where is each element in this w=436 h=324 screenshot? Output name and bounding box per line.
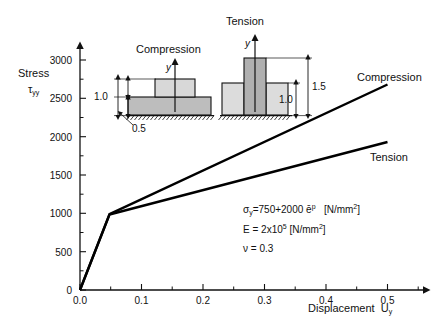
inset-tension: [219, 40, 313, 120]
y-tick-label: 500: [38, 248, 72, 258]
inset-tension-title: Tension: [226, 16, 264, 27]
y-axis-major-ticks: [80, 60, 86, 290]
poisson-ratio-line: ν = 0.3: [243, 243, 273, 254]
x-tick-label: 0.2: [188, 296, 218, 306]
y-axis-label-stress: Stress: [18, 68, 49, 79]
inset-tension-axis-label: y: [245, 39, 250, 49]
strain-superscript: p: [312, 203, 316, 210]
y-tick-label: 3000: [38, 56, 72, 66]
x-tick-label: 0.0: [65, 296, 95, 306]
x-tick-label: 0.3: [250, 296, 280, 306]
inset-compression-dim-lower: 0.5: [132, 124, 146, 134]
inset-tension-dim-inner: 1.0: [279, 95, 293, 105]
modulus-units-post: ]: [323, 224, 326, 235]
y-tick-label: 1500: [38, 171, 72, 181]
inset-compression: [114, 64, 214, 125]
inset-compression-axis-label: y: [166, 63, 171, 73]
curve-label-tension: Tension: [370, 152, 408, 163]
material-law-line: σy=750+2000 ēp [N/mm2]: [243, 203, 360, 216]
curve-tension: [80, 142, 388, 290]
x-axis-subscript: y: [389, 308, 393, 315]
inset-tension-dim-outer: 1.5: [312, 82, 326, 92]
sigma-units-pre: [N/mm: [324, 204, 353, 215]
inset-compression-dim-upper: 1.0: [94, 92, 108, 102]
x-axis-label: Displacement Uy: [308, 303, 392, 315]
sigma-units-post: ]: [357, 204, 360, 215]
youngs-modulus-line: E = 2x105 [N/mm2]: [243, 223, 326, 235]
x-axis-symbol: U: [381, 302, 389, 314]
y-tick-label: 0: [38, 286, 72, 296]
modulus-units-pre: [N/mm: [287, 224, 319, 235]
curve-label-compression: Compression: [357, 72, 422, 83]
y-tick-label: 2000: [38, 133, 72, 143]
modulus-value: E = 2x10: [243, 224, 283, 235]
inset-compression-title: Compression: [136, 44, 201, 55]
y-tick-label: 2500: [38, 94, 72, 104]
x-axis-label-text: Displacement: [308, 302, 375, 314]
y-tick-label: 1000: [38, 209, 72, 219]
sigma-expression: =750+2000: [253, 204, 306, 215]
x-tick-label: 0.1: [127, 296, 157, 306]
